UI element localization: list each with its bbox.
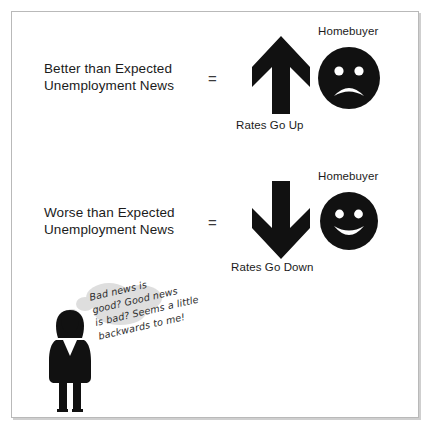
- happy-face-icon: [320, 192, 378, 254]
- row-1-arrow-caption: Rates Go Up: [236, 119, 304, 131]
- row-1-equals: =: [208, 70, 217, 87]
- row-2-equals: =: [208, 214, 217, 231]
- infographic-canvas: Better than Expected Unemployment News =…: [0, 0, 431, 436]
- row-2-arrow-caption: Rates Go Down: [231, 261, 313, 273]
- sad-face-icon: [318, 47, 380, 113]
- person-silhouette-icon: [47, 309, 93, 416]
- row-1-label: Better than Expected Unemployment News: [44, 60, 204, 94]
- row-1-homebuyer-label: Homebuyer: [318, 25, 378, 37]
- row-2-label: Worse than Expected Unemployment News: [44, 204, 204, 238]
- arrow-up-icon: [252, 36, 310, 118]
- row-2-homebuyer-label: Homebuyer: [318, 170, 378, 182]
- arrow-down-icon: [252, 181, 310, 263]
